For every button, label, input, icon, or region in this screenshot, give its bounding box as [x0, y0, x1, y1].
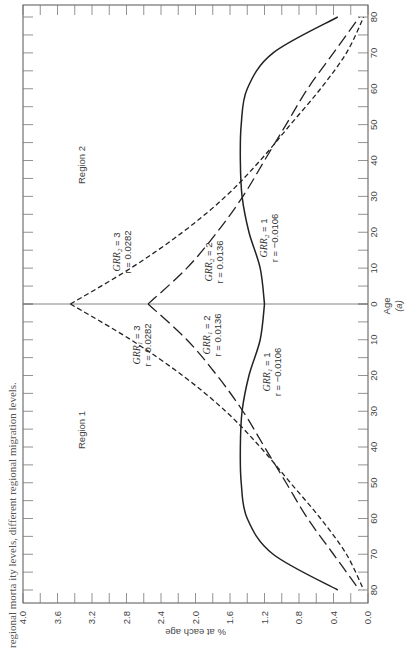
- value-tick-label: 1.6: [224, 611, 235, 624]
- svg-text:r = 0.0282: r = 0.0282: [142, 323, 153, 366]
- region-1-label: Region 1: [76, 411, 87, 449]
- value-tick-label: 3.2: [86, 611, 97, 624]
- age-tick-label: 60: [368, 83, 379, 94]
- svg-text:r = −0.0106: r = −0.0106: [272, 348, 283, 397]
- value-tick-label: 2.4: [155, 611, 166, 624]
- annotation-region2-grr1: GRR2 = 1r = −0.0106: [258, 214, 280, 263]
- value-tick-label: 0.4: [328, 611, 339, 624]
- curve-annotations: GRR1 = 3r = 0.0282GRR1 = 2r = 0.0136GRR1…: [111, 214, 283, 397]
- age-tick-label: 80: [368, 585, 379, 596]
- value-tick-label: 4.0: [17, 611, 28, 624]
- annotation-region1-grr1: GRR1 = 1r = −0.0106: [261, 348, 283, 397]
- age-tick-label: 40: [368, 442, 379, 453]
- value-tick-label: 2.8: [121, 611, 132, 624]
- value-tick-label: 0.0: [362, 611, 373, 624]
- annotation-region2-grr2: GRR2 = 2r = 0.0136: [203, 240, 225, 283]
- age-tick-label: 70: [368, 549, 379, 560]
- annotation-region1-grr3: GRR1 = 3r = 0.0282: [131, 323, 153, 366]
- value-tick-label: 0.8: [293, 611, 304, 624]
- age-tick-label: 10: [368, 263, 379, 274]
- age-tick-label: 40: [368, 155, 379, 166]
- population-distribution-chart: 4.03.63.22.82.42.01.61.20.80.40.0% at ea…: [0, 0, 408, 655]
- curve-grr2-region1: [148, 304, 359, 590]
- age-tick-label: 50: [368, 477, 379, 488]
- region-2-label: Region 2: [76, 146, 87, 184]
- value-tick-label: 2.0: [190, 611, 201, 624]
- age-tick-label: 80: [368, 12, 379, 23]
- curve-grr1-region1: [240, 304, 338, 590]
- age-tick-label: 0: [368, 301, 379, 306]
- data-curves: [70, 17, 363, 590]
- curve-grr2-region2: [148, 17, 359, 304]
- plot-frame: [23, 5, 368, 603]
- value-tick-label: 3.6: [52, 611, 63, 624]
- age-tick-label: 10: [368, 334, 379, 345]
- age-tick-label: 60: [368, 513, 379, 524]
- age-tick-label: 20: [368, 227, 379, 238]
- svg-text:r = 0.0136: r = 0.0136: [212, 313, 223, 356]
- svg-text:r = 0.0282: r = 0.0282: [122, 230, 133, 273]
- annotation-region1-grr2: GRR1 = 2r = 0.0136: [201, 313, 223, 356]
- age-tick-label: 20: [368, 370, 379, 381]
- svg-text:r = 0.0136: r = 0.0136: [214, 240, 225, 283]
- age-tick-label: 50: [368, 119, 379, 130]
- curve-grr1-region2: [240, 17, 338, 304]
- annotation-region2-grr3: GRR2 = 3r = 0.0282: [111, 230, 133, 273]
- age-axis-subtitle: (a): [393, 300, 404, 312]
- svg-text:r = −0.0106: r = −0.0106: [269, 214, 280, 263]
- age-tick-label: 30: [368, 406, 379, 417]
- age-tick-label: 70: [368, 48, 379, 59]
- age-axis-title: Age: [381, 298, 392, 315]
- x-axis-title: % at each age: [165, 627, 226, 638]
- age-tick-label: 30: [368, 191, 379, 202]
- value-tick-label: 1.2: [259, 611, 270, 624]
